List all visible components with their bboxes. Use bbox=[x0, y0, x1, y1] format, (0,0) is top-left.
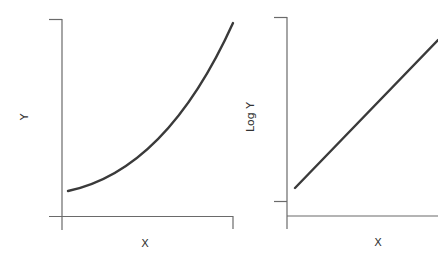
left-exponential-curve bbox=[68, 23, 233, 191]
left-y-label: Y bbox=[18, 113, 31, 121]
left-chart: Y X bbox=[18, 19, 233, 250]
right-log-line bbox=[295, 40, 438, 188]
left-x-label: X bbox=[141, 237, 149, 250]
right-chart: Log Y X bbox=[244, 17, 438, 249]
right-x-label: X bbox=[374, 236, 382, 249]
figure: Y X Log Y X bbox=[0, 0, 438, 271]
right-y-label: Log Y bbox=[244, 102, 257, 132]
